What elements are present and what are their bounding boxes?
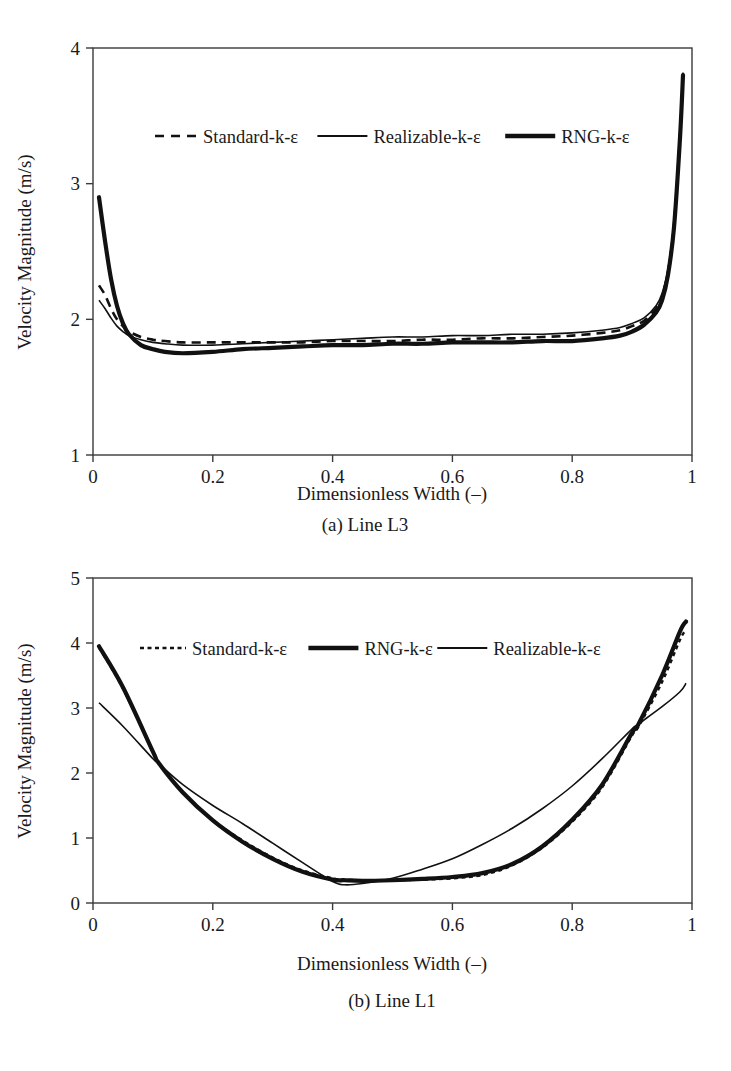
legend-label: Realizable-k-ε [493, 639, 601, 659]
x-tick-label: 0.8 [560, 914, 584, 935]
legend-label: Standard-k-ε [192, 639, 287, 659]
series-line-standardk [99, 630, 686, 880]
x-axis-ticks-b [93, 903, 692, 910]
chart-b-svg: 012345 00.20.40.60.81 Standard-k-εRNG-k-… [0, 530, 731, 1071]
series-line-standardk [99, 75, 683, 342]
legend-label: RNG-k-ε [364, 639, 433, 659]
x-tick-label: 0.2 [201, 466, 225, 487]
y-axis-ticks-b [86, 578, 93, 903]
x-axis-title-b: Dimensionless Width (–) [297, 953, 487, 975]
x-tick-labels-b: 00.20.40.60.81 [88, 914, 697, 935]
y-tick-label: 1 [71, 445, 81, 466]
panel-caption-b: (b) Line L1 [348, 990, 436, 1012]
y-axis-title-b: Velocity Magnitude (m/s) [14, 643, 36, 838]
x-tick-label: 0 [88, 914, 98, 935]
data-series-group-b [99, 622, 686, 885]
series-line-rngk [99, 622, 686, 881]
x-tick-label: 0.6 [441, 914, 465, 935]
y-tick-label: 3 [71, 173, 81, 194]
x-tick-label: 1 [687, 466, 697, 487]
y-tick-labels-a: 1234 [71, 38, 81, 466]
y-tick-label: 3 [71, 698, 81, 719]
data-series-group-a [99, 72, 683, 353]
y-tick-label: 2 [71, 309, 81, 330]
legend-b: Standard-k-εRNG-k-εRealizable-k-ε [140, 639, 601, 659]
series-line-realizablek [99, 72, 683, 345]
chart-panel-line-l3: 1234 00.20.40.60.81 Standard-k-εRealizab… [0, 0, 731, 540]
chart-panel-line-l1: 012345 00.20.40.60.81 Standard-k-εRNG-k-… [0, 530, 731, 1071]
legend-label: RNG-k-ε [561, 127, 630, 147]
series-line-realizablek [99, 683, 686, 885]
y-tick-label: 2 [71, 763, 81, 784]
y-tick-label: 5 [71, 568, 81, 589]
chart-a-svg: 1234 00.20.40.60.81 Standard-k-εRealizab… [0, 0, 731, 540]
y-axis-ticks-a [86, 48, 93, 455]
x-axis-ticks-a [93, 455, 692, 462]
y-tick-label: 0 [71, 893, 81, 914]
x-tick-label: 0 [88, 466, 98, 487]
legend-a: Standard-k-εRealizable-k-εRNG-k-ε [155, 127, 630, 147]
x-axis-title-a: Dimensionless Width (–) [297, 483, 487, 505]
x-tick-label: 0.2 [201, 914, 225, 935]
legend-label: Standard-k-ε [203, 127, 298, 147]
y-tick-label: 1 [71, 828, 81, 849]
y-axis-title-a: Velocity Magnitude (m/s) [14, 154, 36, 349]
plot-frame-a [93, 48, 692, 455]
legend-label: Realizable-k-ε [373, 127, 481, 147]
figure-page: 1234 00.20.40.60.81 Standard-k-εRealizab… [0, 0, 731, 1071]
x-tick-label: 0.8 [560, 466, 584, 487]
y-tick-labels-b: 012345 [71, 568, 81, 914]
y-tick-label: 4 [71, 38, 81, 59]
x-tick-label: 0.4 [321, 914, 345, 935]
x-tick-label: 1 [687, 914, 697, 935]
plot-frame-b [93, 578, 692, 903]
y-tick-label: 4 [71, 633, 81, 654]
series-line-rngk [99, 75, 683, 353]
